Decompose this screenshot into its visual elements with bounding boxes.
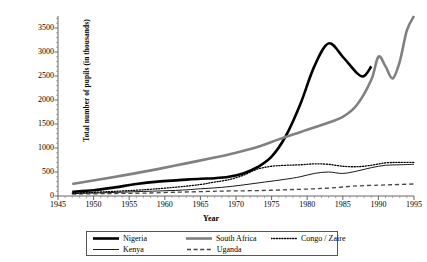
legend-item-south-africa[interactable]: South Africa — [186, 233, 271, 244]
legend-item-congo-zaire[interactable]: Congo / Zaire — [271, 233, 337, 244]
legend-swatch-south-africa — [186, 234, 212, 243]
series-line-south-africa — [72, 16, 414, 184]
y-tick-label: 2000 — [38, 96, 54, 104]
legend-swatch-congo-zaire — [271, 234, 297, 243]
x-tick-label: 1970 — [219, 200, 253, 209]
y-tick-label: 1500 — [38, 120, 54, 128]
legend-label-congo-zaire: Congo / Zaire — [301, 234, 345, 243]
chart-plot-svg — [58, 16, 414, 196]
series-line-nigeria — [72, 43, 371, 191]
legend-item-uganda[interactable]: Uganda — [187, 244, 273, 255]
x-tick-label: 1950 — [77, 200, 111, 209]
x-tick-label: 1975 — [255, 200, 289, 209]
legend-label-uganda: Uganda — [217, 245, 242, 254]
x-tick-label: 1965 — [183, 200, 217, 209]
y-tick-label: 500 — [42, 168, 54, 176]
x-axis-tick-labels: 1945195019551960196519701975198019851990… — [58, 200, 414, 214]
legend-label-south-africa: South Africa — [216, 234, 257, 243]
x-tick-label: 1990 — [361, 200, 395, 209]
x-tick-label: 1945 — [41, 200, 75, 209]
y-tick-label: 0 — [50, 192, 54, 200]
series-group — [72, 16, 414, 194]
y-tick-label: 3500 — [38, 24, 54, 32]
legend-label-nigeria: Nigeria — [123, 234, 147, 243]
legend-item-kenya[interactable]: Kenya — [87, 244, 187, 255]
top-scan-artifact — [70, 0, 370, 8]
y-tick-label: 2500 — [38, 72, 54, 80]
y-axis-tick-labels: 0500100015002000250030003500 — [24, 16, 58, 196]
series-line-congo-zaire — [72, 162, 414, 193]
x-tick-label: 1980 — [290, 200, 324, 209]
axes-group — [55, 16, 415, 200]
legend-swatch-uganda — [187, 245, 213, 254]
legend-swatch-kenya — [93, 245, 119, 254]
legend-swatch-nigeria — [93, 234, 119, 243]
legend-row-2: Kenya Uganda — [87, 244, 337, 255]
series-line-kenya — [72, 164, 414, 193]
legend-item-nigeria[interactable]: Nigeria — [87, 233, 186, 244]
legend-item-empty — [273, 244, 337, 255]
chart-legend: Nigeria South Africa Congo / Zaire Kenya… — [86, 231, 338, 256]
x-axis-title: Year — [0, 214, 422, 223]
x-tick-label: 1955 — [112, 200, 146, 209]
legend-label-kenya: Kenya — [123, 245, 144, 254]
x-tick-label: 1960 — [148, 200, 182, 209]
plot-area: Total number of pupils (in thousands) 05… — [58, 16, 414, 196]
x-tick-label: 1985 — [326, 200, 360, 209]
y-tick-label: 1000 — [38, 144, 54, 152]
y-tick-label: 3000 — [38, 48, 54, 56]
x-tick-label: 1995 — [397, 200, 427, 209]
legend-row-1: Nigeria South Africa Congo / Zaire — [87, 233, 337, 244]
